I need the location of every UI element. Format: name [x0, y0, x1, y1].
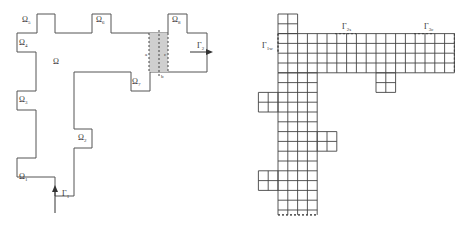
- label-omega4: Ω4: [19, 38, 28, 48]
- label-b: b: [161, 74, 164, 79]
- label-omega7: Ω7: [132, 77, 141, 87]
- inlet-arrowhead-icon: [52, 185, 58, 192]
- label-omega1: Ω1: [19, 172, 28, 182]
- label-omega5: Ω5: [22, 15, 31, 25]
- label-gamma-1w: Γ1w: [262, 41, 273, 51]
- label-omega6: Ω6: [96, 15, 105, 25]
- label-gamma-2s: Γ2s: [342, 22, 351, 32]
- label-omega: Ω: [53, 57, 59, 66]
- right-grid-diagram: [258, 14, 454, 215]
- label-gamma1: Γ1: [62, 189, 70, 199]
- label-omega2: Ω2: [78, 133, 87, 143]
- label-omega3: Ω3: [19, 95, 28, 105]
- domain-outline: [17, 14, 207, 196]
- left-domain-diagram: Ω5 Ω6 Ω8 Ω4 Ω Ω3 Ω7 Ω2 Ω1 a c b Γ2 Γ1: [17, 14, 213, 213]
- label-gamma-3c: Γ3c: [424, 22, 434, 32]
- label-a: a: [145, 52, 148, 57]
- label-omega8: Ω8: [172, 15, 181, 25]
- figure: Ω5 Ω6 Ω8 Ω4 Ω Ω3 Ω7 Ω2 Ω1 a c b Γ2 Γ1 Γ1…: [0, 0, 468, 225]
- label-gamma2: Γ2: [197, 41, 205, 51]
- outlet-arrowhead-icon: [206, 49, 213, 55]
